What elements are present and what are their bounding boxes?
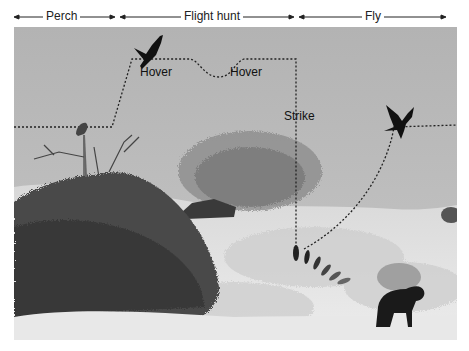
phase-label-flight-hunt: Flight hunt (181, 9, 243, 23)
phase-timeline: Perch Flight hunt Fly (0, 0, 469, 27)
acacia-tree (178, 131, 322, 211)
strike-label: Strike (284, 109, 315, 123)
phase-label-fly: Fly (362, 9, 384, 23)
hover-label-1: Hover (140, 65, 172, 79)
scene-photo: Hover Hover Strike (14, 27, 457, 340)
hover-label-2: Hover (230, 65, 262, 79)
phase-label-perch: Perch (43, 9, 80, 23)
